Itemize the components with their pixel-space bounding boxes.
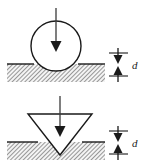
spherical-indenter-panel: d [7, 8, 138, 82]
depth-label-top: d [132, 59, 138, 71]
depth-dimension-arrowhead-lower-top [114, 66, 123, 75]
hardness-test-figure: d [0, 0, 149, 168]
conical-indenter-panel: d [7, 96, 138, 160]
depth-label-bottom: d [132, 137, 138, 149]
figure-canvas: d [0, 0, 149, 168]
depth-dimension-arrowhead-lower-bottom [114, 144, 123, 153]
depth-dimension-arrowhead-upper-top [114, 55, 123, 64]
depth-dimension-arrowhead-upper-bottom [114, 133, 123, 142]
